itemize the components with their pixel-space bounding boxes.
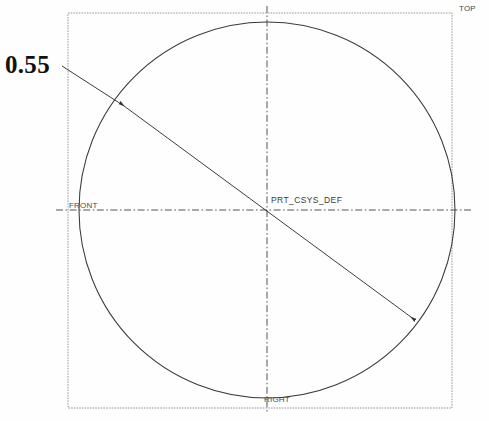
coordinate-system-label[interactable]: PRT_CSYS_DEF	[271, 196, 342, 205]
datum-label-top[interactable]: TOP	[459, 5, 476, 13]
datum-label-front[interactable]: FRONT	[69, 202, 98, 210]
datum-label-right[interactable]: RIGHT	[264, 396, 290, 404]
dimension-value-text[interactable]: 0.55	[5, 52, 50, 77]
diameter-dimension-line	[120, 103, 415, 320]
cad-drawing-canvas[interactable]: 0.55 TOP FRONT RIGHT PRT_CSYS_DEF	[0, 0, 489, 421]
dimension-leader-line	[62, 66, 121, 104]
cad-geometry	[0, 0, 489, 421]
